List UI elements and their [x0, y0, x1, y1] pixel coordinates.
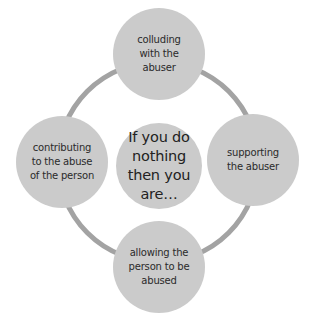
node-contributing: contributingto the abuseof the person — [16, 116, 108, 208]
node-colluding: colludingwith theabuser — [113, 8, 205, 100]
node-text: supporting — [227, 146, 279, 160]
center-text: then you — [128, 166, 191, 185]
node-allowing: allowing theperson to beabused — [113, 221, 205, 313]
node-text: abused — [129, 274, 190, 288]
node-text: to the abuse — [30, 155, 94, 169]
node-text: the abuser — [227, 160, 279, 174]
node-text: colluding — [137, 33, 181, 47]
node-text: of the person — [30, 169, 94, 183]
node-supporting: supportingthe abuser — [207, 114, 299, 206]
node-text: contributing — [30, 141, 94, 155]
node-text: with the — [137, 47, 181, 61]
node-text: abuser — [137, 61, 181, 75]
center-node: If you donothingthen youare… — [116, 123, 202, 209]
node-text: person to be — [129, 260, 190, 274]
center-text: nothing — [128, 147, 191, 166]
center-text: are… — [128, 185, 191, 204]
node-text: allowing the — [129, 246, 190, 260]
center-text: If you do — [128, 128, 191, 147]
